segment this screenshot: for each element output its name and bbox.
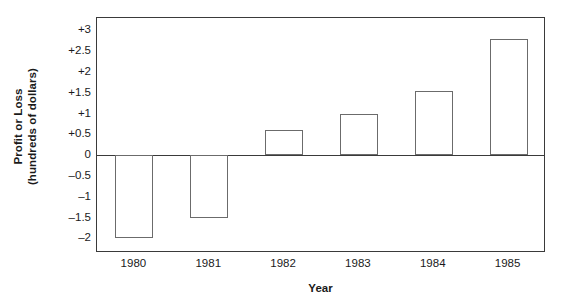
y-tick-label: –1 [78,190,91,202]
y-tick-label: +0.5 [68,127,91,139]
x-tick-label-1985: 1985 [495,256,521,270]
bar-1981 [190,155,228,217]
y-tick-label: +2.5 [68,44,91,56]
y-tick-label: –0.5 [69,169,91,181]
y-axis-title-line-2: (hundreds of dollars) [26,67,40,184]
y-tick-label: 0 [85,148,91,160]
x-tick-label-1982: 1982 [270,256,296,270]
x-tick-label-1984: 1984 [420,256,446,270]
bar-1982 [265,130,303,155]
y-tick-label: +3 [78,23,91,35]
bar-1984 [415,91,453,155]
plot-area [96,17,545,252]
x-tick-label-1981: 1981 [195,256,221,270]
y-tick-label: –2 [78,231,91,243]
zero-baseline [97,155,544,156]
y-tick-label: +1 [78,107,91,119]
y-axis-tick-labels: +3+2.5+2+1.5+1+0.50–0.5–1–1.5–2 [52,0,94,260]
x-tick-label-1983: 1983 [345,256,371,270]
bar-1980 [115,155,153,238]
y-axis-title-line-1: Profit or Loss [13,88,25,164]
y-tick-label: +2 [78,65,91,77]
x-axis-title: Year [96,282,545,295]
x-tick-label-1980: 1980 [121,256,147,270]
y-axis-title: Profit or Loss (hundreds of dollars) [0,0,52,252]
bar-1985 [490,39,528,155]
y-tick-label: +1.5 [68,86,91,98]
profit-loss-bar-chart: Profit or Loss (hundreds of dollars) +3+… [0,0,561,304]
bar-1983 [340,114,378,156]
y-tick-label: –1.5 [69,211,91,223]
x-axis-tick-labels: 198019811982198319841985 [96,256,545,274]
